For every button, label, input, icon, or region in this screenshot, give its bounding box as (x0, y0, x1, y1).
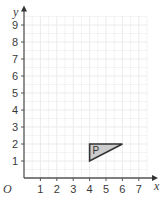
x-axis-label: x (153, 179, 160, 193)
x-tick-label: 1 (37, 183, 43, 195)
y-tick-label: 5 (12, 87, 18, 99)
x-tick-label: 5 (103, 183, 109, 195)
x-tick-label: 4 (87, 183, 93, 195)
y-tick-label: 7 (12, 53, 18, 65)
y-arrow-icon (21, 6, 27, 12)
y-axis-label: y (12, 5, 19, 19)
y-tick-label: 3 (12, 121, 18, 133)
shape-label: P (93, 145, 100, 156)
x-tick-label: 6 (119, 183, 125, 195)
x-tick-label: 7 (136, 183, 142, 195)
y-tick-label: 1 (12, 155, 18, 167)
grid-lines (24, 17, 147, 179)
coordinate-grid-chart: 1234567123456789 P x y O (0, 0, 166, 206)
x-tick-label: 2 (54, 183, 60, 195)
y-tick-label: 8 (12, 36, 18, 48)
x-tick-label: 3 (70, 183, 76, 195)
y-tick-label: 4 (12, 104, 18, 116)
origin-label: O (3, 182, 12, 196)
y-tick-label: 9 (12, 19, 18, 31)
y-tick-label: 2 (12, 138, 18, 150)
y-tick-label: 6 (12, 70, 18, 82)
